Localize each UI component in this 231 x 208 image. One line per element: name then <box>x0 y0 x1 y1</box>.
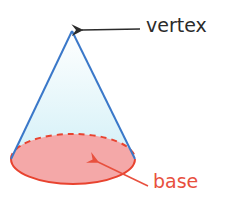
vertex-arrow <box>82 29 140 30</box>
base-label: base <box>153 172 198 191</box>
vertex-label: vertex <box>146 16 207 35</box>
